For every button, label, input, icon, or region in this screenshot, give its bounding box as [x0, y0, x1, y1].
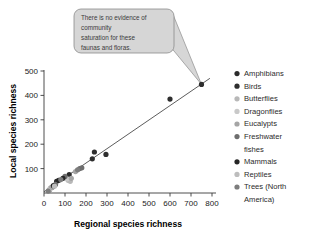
data-point [58, 177, 63, 182]
y-axis-tick-label: 500 [25, 67, 39, 76]
data-point [92, 149, 97, 154]
x-axis-tick-label: 100 [58, 199, 72, 208]
legend-marker [234, 71, 239, 76]
legend-item-label: Butterflies [244, 94, 278, 103]
data-point [90, 156, 95, 161]
legend-item-label: Freshwater [244, 132, 282, 141]
y-axis-tick-label: 400 [25, 91, 39, 100]
y-axis-tick-label: 200 [25, 140, 39, 149]
legend-item-label: Dragonflies [244, 107, 283, 116]
legend-item-label: fishes [244, 145, 264, 154]
legend-marker [234, 159, 239, 164]
legend-marker [234, 121, 239, 126]
legend-marker [234, 184, 239, 189]
y-axis-tick-label: 300 [25, 116, 39, 125]
data-point [69, 176, 74, 181]
x-axis-tick-label: 300 [100, 199, 114, 208]
legend-marker [234, 96, 239, 101]
data-point [46, 188, 51, 193]
y-axis-title: Local species richness [8, 84, 18, 178]
legend-marker [234, 84, 239, 89]
x-axis-tick-label: 800 [205, 199, 219, 208]
legend-item-label: Mammals [244, 157, 277, 166]
callout-line: saturation for these [81, 34, 135, 41]
x-axis-tick-label: 400 [121, 199, 135, 208]
legend-item-label: Birds [244, 82, 262, 91]
data-point [75, 167, 80, 172]
legend-item-label: America) [244, 195, 275, 204]
x-axis-tick-label: 0 [42, 199, 47, 208]
x-axis-tick-label: 600 [163, 199, 177, 208]
x-axis-tick-label: 700 [184, 199, 198, 208]
x-axis-tick-label: 200 [79, 199, 93, 208]
data-point [167, 96, 172, 101]
legend-marker [234, 172, 239, 177]
y-axis-tick-label: 100 [25, 165, 39, 174]
legend-marker [234, 109, 239, 114]
legend-marker [234, 134, 239, 139]
callout-line: faunas and floras. [81, 44, 131, 51]
legend-item-label: Amphibians [244, 69, 284, 78]
legend-item-label: Trees (North [244, 182, 286, 191]
callout-line: There is no evidence of [81, 14, 147, 21]
scatter-plot-figure: There is no evidence of community satura… [0, 0, 324, 240]
legend-item-label: Reptiles [244, 170, 272, 179]
x-axis-tick-label: 500 [142, 199, 156, 208]
data-point [103, 152, 108, 157]
callout-line: community [81, 24, 112, 32]
legend-item-label: Eucalypts [244, 119, 277, 128]
data-point [52, 184, 57, 189]
data-point [199, 82, 204, 87]
x-axis-title: Regional species richness [74, 219, 182, 229]
